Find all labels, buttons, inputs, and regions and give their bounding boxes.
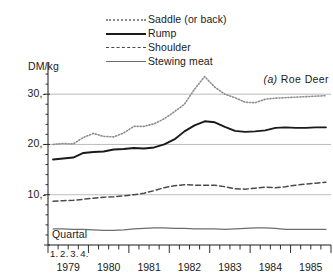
legend-line-saddle-icon: [104, 13, 146, 25]
legend-label-saddle: Saddle (or back): [146, 13, 227, 25]
year-tick-label-1983: 1983: [210, 261, 250, 273]
x-axis-title: Quartal: [52, 228, 87, 240]
series-line-rump: [53, 121, 326, 159]
series-line-shoulder: [53, 182, 326, 201]
chart-figure: Saddle (or back) Rump Shoulder Stewing m…: [0, 0, 333, 279]
year-tick-label-1985: 1985: [291, 261, 331, 273]
legend-item-rump: Rump: [104, 26, 274, 40]
series-line-stewing-meat: [53, 228, 326, 231]
legend-item-stewing-meat: Stewing meat: [104, 54, 274, 68]
legend-label-shoulder: Shoulder: [146, 41, 191, 53]
series-line-saddle-or-back: [53, 77, 326, 145]
legend-line-shoulder-icon: [104, 41, 146, 53]
year-tick-label-1981: 1981: [129, 261, 169, 273]
y-tick-label-20: 20,-: [20, 137, 46, 149]
legend-line-rump-icon: [104, 27, 146, 39]
panel-label: (a) Roe Deer: [263, 73, 329, 85]
legend-label-rump: Rump: [146, 27, 176, 39]
year-tick-label-1980: 1980: [89, 261, 129, 273]
year-tick-label-1979: 1979: [48, 261, 88, 273]
quarter-tick-label-1: 1.: [50, 248, 58, 259]
year-tick-label-1984: 1984: [250, 261, 290, 273]
quarter-tick-label-2: 2.: [60, 248, 68, 259]
legend-item-shoulder: Shoulder: [104, 40, 274, 54]
legend-item-saddle: Saddle (or back): [104, 12, 274, 26]
chart-legend: Saddle (or back) Rump Shoulder Stewing m…: [104, 12, 274, 68]
quarter-tick-label-4: 4.: [80, 248, 88, 259]
panel-tag: (a): [263, 73, 277, 85]
legend-line-stewing-meat-icon: [104, 55, 146, 67]
year-tick-label-1982: 1982: [170, 261, 210, 273]
quarter-tick-labels: 1.2.3.4.: [50, 248, 90, 259]
y-tick-label-30: 30,-: [20, 87, 46, 99]
panel-name: Roe Deer: [281, 73, 329, 85]
y-axis-title: DM/kg: [28, 60, 59, 72]
legend-label-stewing-meat: Stewing meat: [146, 55, 213, 67]
y-tick-label-10: 10,-: [20, 188, 46, 200]
quarter-tick-label-3: 3.: [70, 248, 78, 259]
